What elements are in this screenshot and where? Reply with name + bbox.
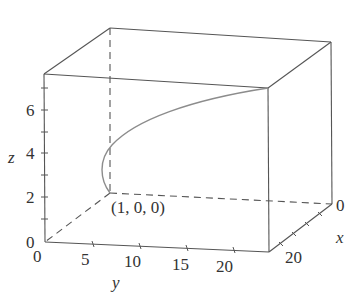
3d-plot: 6 4 2 0 z 0 5 10 15 20 y 0 20 x (1, 0, 0… [0, 0, 360, 305]
box-edge [110, 28, 331, 42]
z-tick-label: 2 [26, 188, 35, 207]
box-edge [268, 42, 331, 88]
x-tick-label: 20 [285, 248, 302, 267]
y-tick-label: 0 [33, 247, 42, 266]
hidden-edges [45, 28, 332, 242]
box-edge [268, 88, 269, 252]
box-edge [44, 28, 110, 74]
space-curve [102, 88, 268, 193]
z-axis-label: z [7, 148, 15, 167]
y-tick-label: 10 [124, 252, 141, 271]
y-axis-label: y [110, 273, 120, 292]
z-tick-label: 6 [26, 101, 35, 120]
bounding-box [44, 28, 332, 252]
y-tick-label: 5 [81, 250, 90, 269]
y-tick-label: 15 [172, 255, 189, 274]
x-tick-label: 0 [336, 196, 345, 215]
x-axis-line [269, 204, 332, 252]
box-edge [44, 74, 268, 88]
box-edge [331, 42, 332, 204]
z-axis-line [44, 74, 45, 242]
hidden-edge [45, 193, 110, 242]
x-axis-label: x [335, 228, 344, 247]
z-tick-label: 4 [26, 144, 35, 163]
y-axis-line [45, 242, 269, 252]
top-crop [0, 0, 360, 6]
y-tick-label: 20 [216, 257, 233, 276]
point-annotation: (1, 0, 0) [111, 198, 165, 217]
